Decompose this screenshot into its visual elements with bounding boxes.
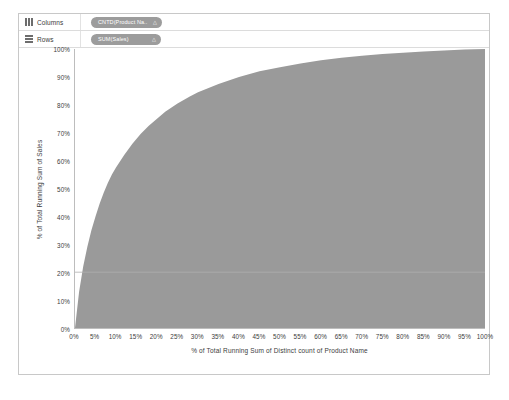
y-tick-label: 90% (57, 74, 70, 81)
x-tick-label: 55% (294, 333, 307, 340)
x-tick-label: 75% (376, 333, 389, 340)
x-tick-label: 30% (191, 333, 204, 340)
y-tick-label: 0% (61, 326, 70, 333)
shelf-rows-label-box: Rows (19, 31, 81, 47)
x-tick-label: 10% (109, 333, 122, 340)
rows-grid-icon (25, 35, 33, 43)
pill-rows-field[interactable]: SUM(Sales) △ (91, 34, 161, 45)
area-chart-svg (75, 49, 485, 328)
x-tick-label: 50% (273, 333, 286, 340)
y-tick-label: 40% (57, 214, 70, 221)
y-axis-title-text: % of Total Running Sum of Sales (37, 139, 44, 239)
shelf-rows[interactable]: Rows SUM(Sales) △ (19, 31, 489, 48)
pill-rows-text: SUM(Sales) (98, 36, 129, 42)
shelf-columns-label-box: Columns (19, 14, 81, 30)
x-tick-label: 0% (69, 333, 78, 340)
x-tick-label: 95% (458, 333, 471, 340)
x-tick-label: 40% (232, 333, 245, 340)
x-tick-label: 70% (355, 333, 368, 340)
x-tick-label: 90% (437, 333, 450, 340)
x-tick-label: 100% (477, 333, 494, 340)
y-tick-label: 30% (57, 242, 70, 249)
shelf-columns-field-area[interactable]: CNTD(Product Na.. △ (81, 14, 489, 30)
y-tick-label: 70% (57, 130, 70, 137)
x-axis-ticks: 0%5%10%15%20%25%30%35%40%45%50%55%60%65%… (74, 330, 485, 344)
y-tick-label: 50% (57, 186, 70, 193)
y-tick-label: 10% (57, 298, 70, 305)
y-tick-label: 20% (57, 270, 70, 277)
y-axis-ticks: 0%10%20%30%40%50%60%70%80%90%100% (47, 49, 73, 329)
pill-columns-text: CNTD(Product Na.. (98, 19, 147, 25)
x-tick-label: 35% (211, 333, 224, 340)
shelf-rows-field-area[interactable]: SUM(Sales) △ (81, 31, 489, 47)
shelf-columns[interactable]: Columns CNTD(Product Na.. △ (19, 14, 489, 31)
plot-canvas (74, 49, 485, 329)
worksheet-pane: Columns CNTD(Product Na.. △ Rows SUM(Sal… (18, 13, 490, 375)
x-tick-label: 15% (129, 333, 142, 340)
columns-grid-icon (25, 18, 33, 26)
x-tick-label: 65% (335, 333, 348, 340)
pill-rows-dropdown-icon[interactable]: △ (152, 37, 156, 42)
y-axis-title: % of Total Running Sum of Sales (34, 49, 46, 329)
y-tick-label: 100% (53, 46, 70, 53)
shelf-columns-label: Columns (37, 19, 63, 26)
x-tick-label: 60% (314, 333, 327, 340)
x-tick-label: 25% (170, 333, 183, 340)
chart-area: % of Total Running Sum of Sales 0%10%20%… (19, 49, 489, 374)
x-tick-label: 20% (150, 333, 163, 340)
pill-columns-field[interactable]: CNTD(Product Na.. △ (91, 17, 162, 28)
x-tick-label: 85% (417, 333, 430, 340)
shelf-rows-label: Rows (37, 36, 54, 43)
y-tick-label: 60% (57, 158, 70, 165)
x-tick-label: 45% (252, 333, 265, 340)
x-tick-label: 80% (396, 333, 409, 340)
pill-columns-dropdown-icon[interactable]: △ (153, 20, 157, 25)
y-tick-label: 80% (57, 102, 70, 109)
x-axis-title: % of Total Running Sum of Distinct count… (74, 347, 485, 354)
area-series-path (75, 49, 485, 328)
x-tick-label: 5% (90, 333, 99, 340)
